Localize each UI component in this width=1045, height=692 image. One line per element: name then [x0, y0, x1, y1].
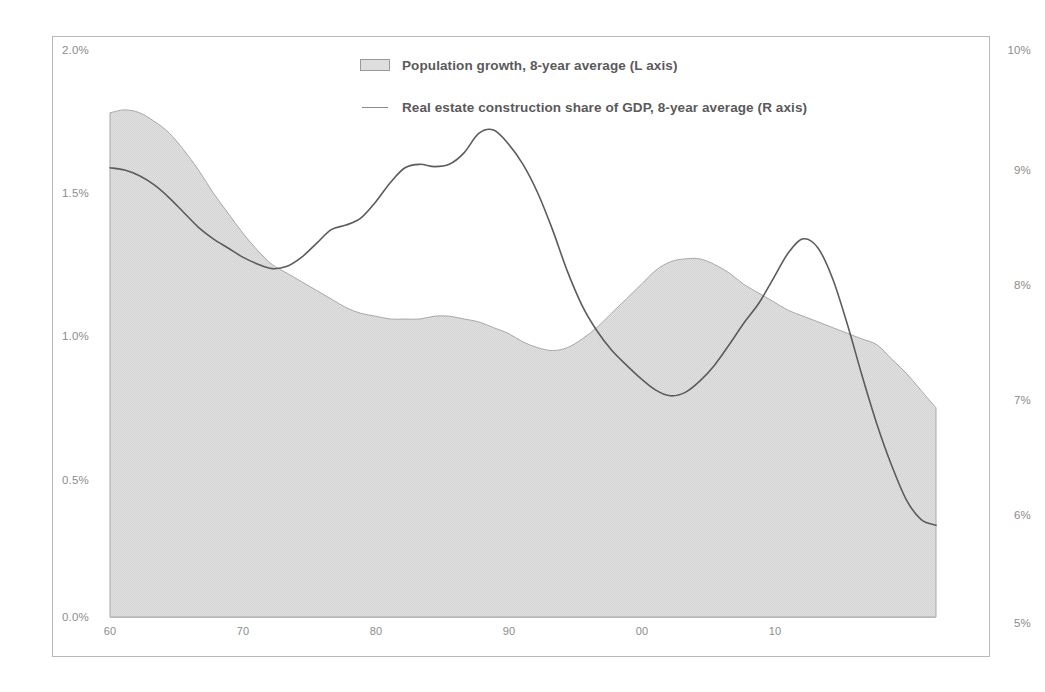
right-axis-tick-5: 5% — [1014, 617, 1031, 629]
plot-surface — [53, 37, 989, 656]
right-axis-tick-6: 6% — [1014, 509, 1031, 521]
population-construction-chart: 2.0% 1.5% 1.0% 0.5% 0.0% 10% 9% 8% 7% 6%… — [0, 0, 1045, 692]
right-axis-tick-10: 10% — [1007, 44, 1031, 56]
right-axis-tick-8: 8% — [1014, 279, 1031, 291]
right-axis-tick-7: 7% — [1014, 394, 1031, 406]
right-axis-tick-9: 9% — [1014, 164, 1031, 176]
population-growth-area — [110, 110, 936, 617]
